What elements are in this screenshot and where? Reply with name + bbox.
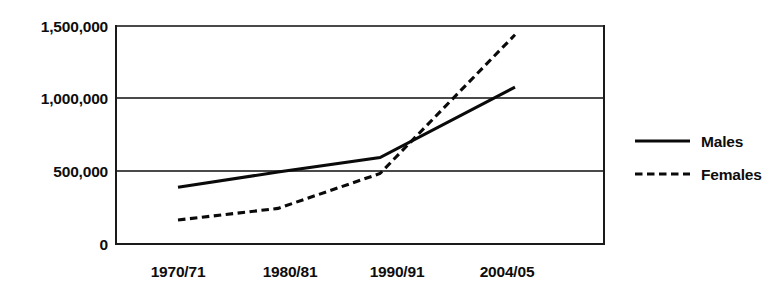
y-tick-label-1000000: 1,000,000 (41, 90, 108, 107)
x-tick-label-1990-91: 1990/91 (370, 263, 425, 280)
y-tick-label-0: 0 (100, 236, 108, 253)
legend-label-females: Females (701, 166, 762, 183)
line-chart: 1,500,000 1,000,000 500,000 0 1970/71 19… (0, 0, 783, 301)
y-tick-label-500000: 500,000 (53, 163, 108, 180)
chart-canvas: 1,500,000 1,000,000 500,000 0 1970/71 19… (0, 0, 783, 301)
x-tick-label-1970-71: 1970/71 (151, 263, 206, 280)
y-tick-label-1500000: 1,500,000 (41, 18, 108, 35)
x-tick-label-2004-05: 2004/05 (480, 263, 535, 280)
x-tick-label-1980-81: 1980/81 (263, 263, 318, 280)
legend-label-males: Males (701, 133, 743, 150)
